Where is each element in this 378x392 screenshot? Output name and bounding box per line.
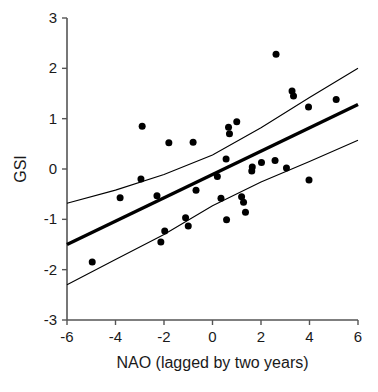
data-point — [117, 194, 124, 201]
y-tick-label: -2 — [44, 261, 57, 278]
data-point — [161, 227, 168, 234]
data-point — [242, 209, 249, 216]
data-point — [240, 199, 247, 206]
data-point — [273, 51, 280, 58]
figure-container: -3-2-10123-6-4-20246 NAO (lagged by two … — [0, 0, 378, 392]
data-point — [223, 155, 230, 162]
data-point — [272, 157, 279, 164]
x-tick-label: 4 — [305, 328, 313, 345]
data-point — [290, 93, 297, 100]
y-tick-label: 0 — [49, 160, 57, 177]
data-point — [137, 176, 144, 183]
data-point — [182, 214, 189, 221]
data-point — [190, 139, 197, 146]
x-axis-title: NAO (lagged by two years) — [116, 354, 308, 371]
scatter-plot: -3-2-10123-6-4-20246 NAO (lagged by two … — [0, 0, 378, 392]
data-point — [258, 159, 265, 166]
y-tick-label: 3 — [49, 9, 57, 26]
data-point — [165, 139, 172, 146]
data-point — [225, 124, 232, 131]
data-point — [89, 259, 96, 266]
x-tick-label: 6 — [354, 328, 362, 345]
data-point — [333, 96, 340, 103]
x-tick-label: -6 — [60, 328, 73, 345]
y-tick-label: 2 — [49, 59, 57, 76]
data-point — [153, 192, 160, 199]
data-point — [217, 195, 224, 202]
y-tick-label: 1 — [49, 110, 57, 127]
x-tick-label: 0 — [208, 328, 216, 345]
data-point — [249, 163, 256, 170]
data-point — [157, 238, 164, 245]
data-point — [214, 173, 221, 180]
data-point — [185, 222, 192, 229]
y-tick-label: -1 — [44, 210, 57, 227]
data-point — [233, 118, 240, 125]
data-point — [283, 164, 290, 171]
y-axis-title: GSI — [12, 155, 29, 183]
data-point — [306, 177, 313, 184]
data-point — [193, 187, 200, 194]
x-tick-label: 2 — [257, 328, 265, 345]
data-point — [226, 130, 233, 137]
x-tick-label: -2 — [157, 328, 170, 345]
x-tick-label: -4 — [109, 328, 122, 345]
y-tick-label: -3 — [44, 311, 57, 328]
data-point — [305, 104, 312, 111]
data-point — [223, 216, 230, 223]
data-point — [139, 123, 146, 130]
